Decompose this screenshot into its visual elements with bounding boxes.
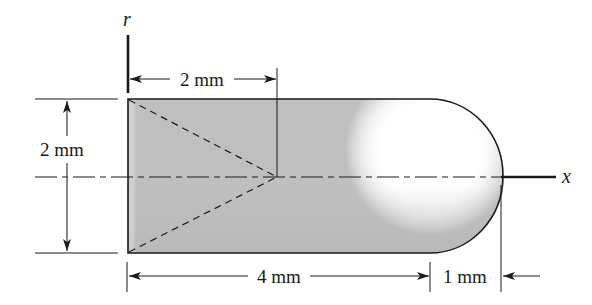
dim-cap-length-label: 1 mm xyxy=(443,266,487,287)
body-shape xyxy=(128,99,503,253)
dim-cylinder-length: 4 mm xyxy=(127,262,430,292)
x-axis-label: x xyxy=(561,165,571,187)
dim-cone-depth-label: 2 mm xyxy=(180,69,224,90)
dim-radius: 2 mm xyxy=(35,99,118,253)
dim-cylinder-length-label: 4 mm xyxy=(257,266,301,287)
dim-radius-label: 2 mm xyxy=(40,139,84,160)
r-axis-label: r xyxy=(123,8,131,30)
left-face-shade xyxy=(128,99,136,253)
diagram-canvas: x r 2 mm 2 mm 4 mm 1 mm xyxy=(0,0,592,305)
cap-shade xyxy=(128,99,503,253)
